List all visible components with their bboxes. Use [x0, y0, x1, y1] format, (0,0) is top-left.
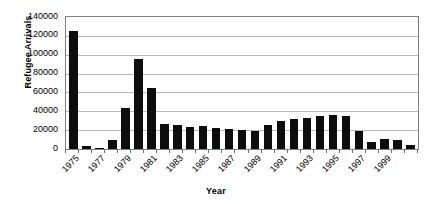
bar — [277, 121, 286, 149]
bar-slot — [300, 17, 313, 149]
x-tick-label: 1987 — [213, 153, 237, 177]
x-tick-label: 1981 — [135, 153, 159, 177]
plot-area — [65, 16, 419, 150]
bar — [212, 128, 221, 149]
x-tick-label: 1989 — [239, 153, 263, 177]
bar-slot — [171, 17, 184, 149]
bar-slot — [80, 17, 93, 149]
y-tick-label: 140000 — [0, 12, 58, 21]
x-tick-label: 1999 — [369, 153, 393, 177]
bar — [251, 131, 260, 149]
bar-slot — [391, 17, 404, 149]
bar — [108, 140, 117, 149]
x-tick-label: 1979 — [109, 153, 133, 177]
bar-slot — [339, 17, 352, 149]
bar — [355, 131, 364, 149]
bar — [121, 108, 130, 149]
bar — [264, 125, 273, 150]
bar-slot — [287, 17, 300, 149]
bar-slot — [404, 17, 417, 149]
bar-slot — [275, 17, 288, 149]
y-tick-label: 60000 — [0, 87, 58, 96]
bar — [380, 139, 389, 149]
x-axis-tick-labels: 1975197719791981198319851987198919911993… — [65, 153, 417, 187]
x-tick-mark — [417, 149, 418, 153]
refugee-arrivals-bar-chart: Refugee Arrivals 14000012000010000080000… — [0, 0, 432, 204]
y-tick-label: 20000 — [0, 125, 58, 134]
bar-slot — [210, 17, 223, 149]
bar — [367, 142, 376, 149]
x-tick-label: 1991 — [265, 153, 289, 177]
bar — [303, 118, 312, 149]
y-tick-label: 120000 — [0, 30, 58, 39]
bar-slot — [184, 17, 197, 149]
x-tick-label: 1993 — [291, 153, 315, 177]
bar-slot — [326, 17, 339, 149]
bar-slot — [145, 17, 158, 149]
x-tick-label: 1997 — [343, 153, 367, 177]
bar-slot — [158, 17, 171, 149]
bar — [393, 140, 402, 149]
bar — [134, 59, 143, 149]
bar-slot — [262, 17, 275, 149]
bar — [225, 129, 234, 149]
x-tick-label: 1995 — [317, 153, 341, 177]
bar-slot — [93, 17, 106, 149]
bar-series — [66, 17, 418, 149]
x-tick-label: 1983 — [161, 153, 185, 177]
bar-slot — [313, 17, 326, 149]
y-tick-label: 40000 — [0, 106, 58, 115]
x-axis-title: Year — [0, 186, 432, 196]
bar-slot — [249, 17, 262, 149]
bar — [199, 126, 208, 149]
y-axis-tick-labels: 140000120000100000800006000040000200000 — [0, 0, 62, 204]
bar-slot — [67, 17, 80, 149]
bar — [69, 31, 78, 149]
bar — [160, 124, 169, 149]
bar-slot — [378, 17, 391, 149]
bar — [290, 119, 299, 149]
y-tick-label: 0 — [0, 144, 58, 153]
bar — [329, 115, 338, 149]
bar-slot — [352, 17, 365, 149]
bar — [342, 116, 351, 149]
bar — [147, 88, 156, 149]
bar-slot — [223, 17, 236, 149]
x-tick-label: 1977 — [83, 153, 107, 177]
bar-slot — [236, 17, 249, 149]
bar — [173, 125, 182, 149]
bar-slot — [365, 17, 378, 149]
bar-slot — [197, 17, 210, 149]
bar — [316, 116, 325, 149]
bar-slot — [119, 17, 132, 149]
x-tick-label: 1985 — [187, 153, 211, 177]
bar-slot — [132, 17, 145, 149]
bar-slot — [106, 17, 119, 149]
bar — [238, 130, 247, 149]
y-tick-label: 100000 — [0, 49, 58, 58]
bar — [186, 127, 195, 149]
y-tick-label: 80000 — [0, 68, 58, 77]
